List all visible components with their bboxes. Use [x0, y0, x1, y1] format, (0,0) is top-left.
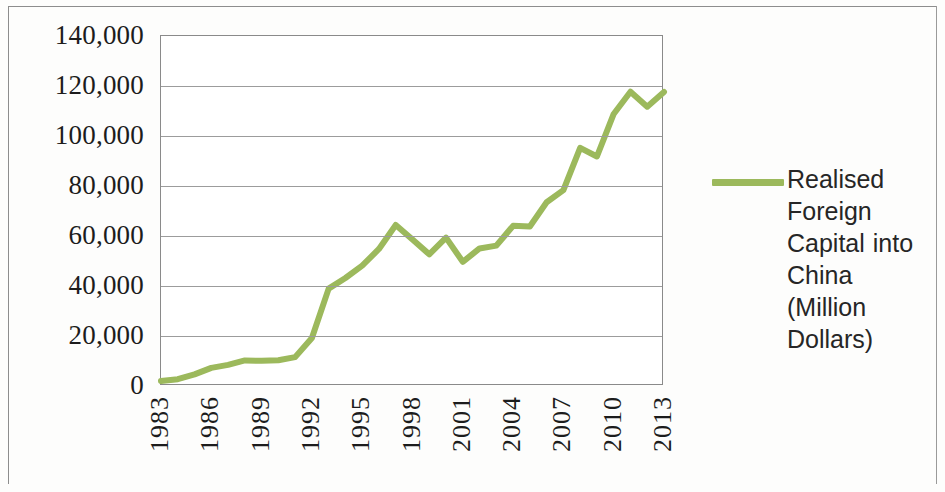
gridline-120000 — [161, 86, 662, 87]
x-tick-label: 1983 — [145, 396, 175, 452]
y-tick-label: 20,000 — [69, 320, 144, 351]
x-axis: 1983198619891992199519982001200420072010… — [160, 388, 663, 488]
x-tick-label: 2013 — [648, 396, 678, 452]
line-swatch-icon — [712, 179, 784, 186]
x-tick-label: 1992 — [296, 396, 326, 452]
x-tick-label: 1989 — [246, 396, 276, 452]
x-tick-label: 1998 — [397, 396, 427, 452]
x-tick-label: 1986 — [195, 396, 225, 452]
figure-outer-border-right — [936, 6, 937, 484]
y-tick-label: 80,000 — [69, 170, 144, 201]
y-tick-label: 40,000 — [69, 270, 144, 301]
x-tick-label: 2007 — [547, 396, 577, 452]
y-tick-label: 0 — [130, 370, 144, 401]
x-tick-label: 2010 — [598, 396, 628, 452]
y-axis: 020,00040,00060,00080,000100,000120,0001… — [10, 35, 152, 385]
chart-figure: 020,00040,00060,00080,000100,000120,0001… — [0, 0, 945, 492]
series-line-realised-foreign-capital — [161, 36, 664, 386]
y-tick-label: 100,000 — [55, 120, 144, 151]
y-tick-label: 60,000 — [69, 220, 144, 251]
gridline-60000 — [161, 236, 662, 237]
plot-area — [160, 35, 663, 385]
legend: Realised Foreign Capital into China (Mil… — [712, 163, 927, 355]
x-tick-label: 1995 — [346, 396, 376, 452]
x-tick-label: 2001 — [447, 396, 477, 452]
x-tick-label: 2004 — [497, 396, 527, 452]
legend-label: Realised Foreign Capital into China (Mil… — [787, 163, 927, 355]
gridline-100000 — [161, 136, 662, 137]
y-tick-label: 120,000 — [55, 70, 144, 101]
gridline-80000 — [161, 186, 662, 187]
gridline-20000 — [161, 336, 662, 337]
gridline-40000 — [161, 286, 662, 287]
y-tick-label: 140,000 — [55, 20, 144, 51]
